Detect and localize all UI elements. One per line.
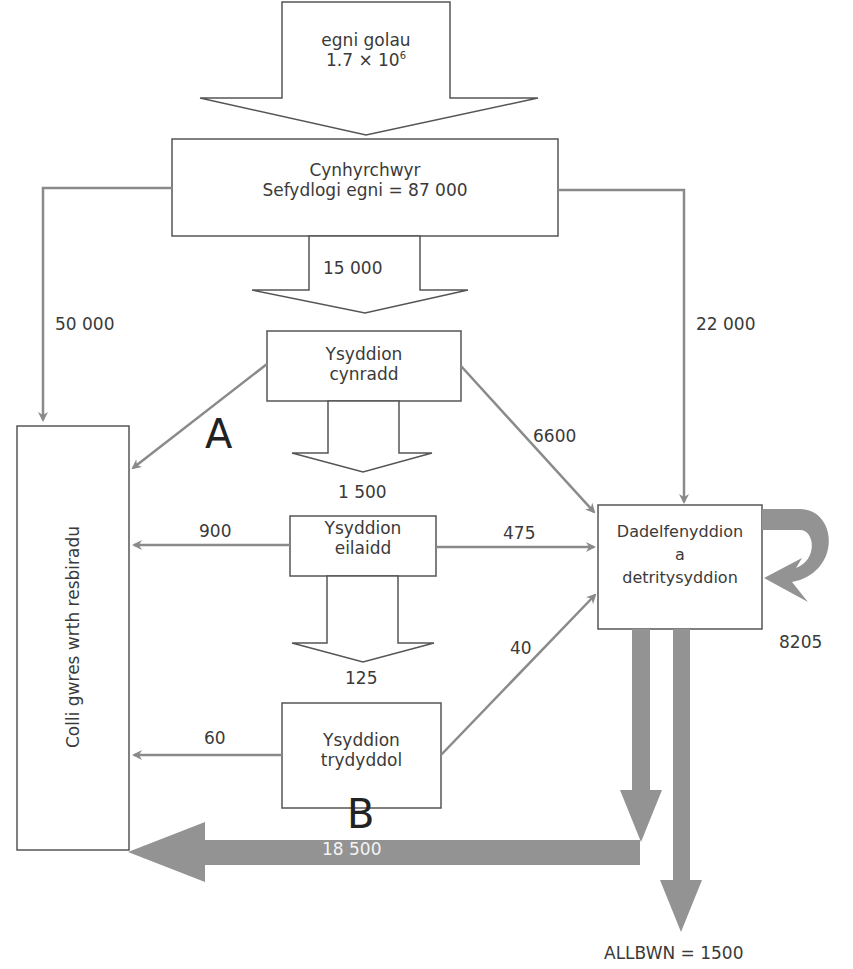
decomposers-line1: Dadelfenyddion [598, 520, 762, 543]
flow-label-475: 475 [503, 523, 535, 543]
secondary-line1: Ysyddion [290, 518, 436, 538]
flow-label-18500: 18 500 [322, 839, 381, 859]
producers-fixation: Sefydlogi egni = 87 000 [172, 180, 558, 200]
flow-label-15000: 15 000 [323, 258, 382, 278]
flow-label-125: 125 [345, 668, 377, 688]
tertiary-line2: trydyddol [282, 750, 441, 770]
respiration-label: Colli gwres wrth resbiradu [63, 524, 83, 750]
secondary-label: Ysyddion eilaidd [290, 518, 436, 559]
flow-label-22000: 22 000 [696, 314, 755, 334]
flow-label-40: 40 [510, 638, 532, 658]
flow-label-50000: 50 000 [55, 314, 114, 334]
flow-tertiary-to-decomposers [441, 595, 595, 755]
primary-label: Ysyddion cynradd [267, 344, 461, 385]
light-energy-value: 1.7 × 106 [282, 50, 450, 70]
flow-producers-to-respiration [43, 188, 172, 420]
decomposers-line3: detritysyddion [598, 566, 762, 589]
flow-primary-to-respiration [133, 364, 267, 468]
flow-decomposers-to-respiration [128, 822, 640, 882]
producers-title: Cynhyrchwyr [172, 160, 558, 180]
marker-a: A [205, 410, 232, 458]
flow-output [660, 629, 702, 932]
output-label: ALLBWN = 1500 [604, 943, 743, 963]
flow-producers-to-decomposers [558, 190, 684, 502]
arrow-primary-to-secondary [292, 401, 432, 472]
primary-line2: cynradd [267, 364, 461, 384]
primary-line1: Ysyddion [267, 344, 461, 364]
flow-decomposers-loop [762, 509, 829, 602]
secondary-line2: eilaidd [290, 538, 436, 558]
decomposers-line2: a [598, 543, 762, 566]
marker-b: B [347, 790, 374, 838]
light-energy-text: egni golau [282, 30, 450, 50]
decomposers-label: Dadelfenyddion a detritysyddion [598, 520, 762, 590]
light-energy-base: 1.7 × 10 [326, 50, 400, 70]
producers-label: Cynhyrchwyr Sefydlogi egni = 87 000 [172, 160, 558, 201]
flow-decomposers-down-left [620, 629, 662, 842]
light-energy-exponent: 6 [400, 51, 406, 62]
flow-label-900: 900 [199, 521, 231, 541]
tertiary-label: Ysyddion trydyddol [282, 730, 441, 771]
tertiary-line1: Ysyddion [282, 730, 441, 750]
flow-label-6600: 6600 [533, 426, 576, 446]
light-energy-label: egni golau 1.7 × 106 [282, 30, 450, 71]
flow-label-8205: 8205 [779, 632, 822, 652]
flow-label-60: 60 [204, 728, 226, 748]
energy-flow-diagram [0, 0, 853, 969]
flow-label-1500: 1 500 [338, 482, 387, 502]
arrow-secondary-to-tertiary [292, 576, 434, 662]
